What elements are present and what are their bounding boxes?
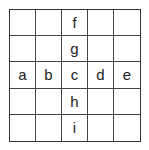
cell-r2-c3: d xyxy=(88,62,114,88)
cell-r3-c0 xyxy=(10,89,36,115)
cell-r2-c0: a xyxy=(10,62,36,88)
letter-grid: f g a b c d e h i xyxy=(9,9,141,142)
cell-r0-c0 xyxy=(10,10,36,36)
cell-r1-c2: g xyxy=(62,36,88,62)
cell-r1-c3 xyxy=(88,36,114,62)
cell-r3-c2: h xyxy=(62,89,88,115)
cell-r4-c2: i xyxy=(62,115,88,141)
cell-r2-c1: b xyxy=(36,62,62,88)
cell-r2-c4: e xyxy=(114,62,140,88)
cell-r0-c4 xyxy=(114,10,140,36)
cell-r4-c4 xyxy=(114,115,140,141)
cell-r3-c3 xyxy=(88,89,114,115)
cell-r3-c4 xyxy=(114,89,140,115)
cell-r0-c3 xyxy=(88,10,114,36)
cell-r4-c1 xyxy=(36,115,62,141)
cell-r0-c1 xyxy=(36,10,62,36)
cell-r0-c2: f xyxy=(62,10,88,36)
cell-r4-c0 xyxy=(10,115,36,141)
cell-r4-c3 xyxy=(88,115,114,141)
cell-r2-c2: c xyxy=(62,62,88,88)
cell-r1-c1 xyxy=(36,36,62,62)
cell-r1-c0 xyxy=(10,36,36,62)
cell-r3-c1 xyxy=(36,89,62,115)
cell-r1-c4 xyxy=(114,36,140,62)
